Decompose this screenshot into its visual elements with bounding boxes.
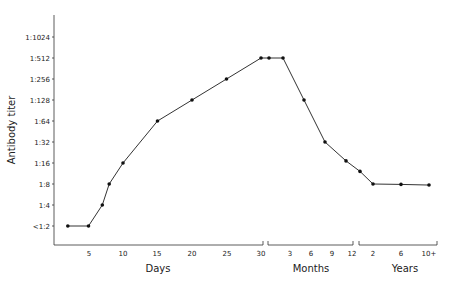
x-axis-title-days: Days [146,263,171,274]
y-tick-label: 1:32 [34,139,50,147]
data-point [267,56,271,60]
data-point [121,161,125,165]
y-tick-label: 1:128 [30,97,50,105]
x-tick-label: 10 [119,250,128,258]
y-tick-label: 1:4 [39,202,51,210]
data-point [323,140,327,144]
data-point [66,224,70,228]
x-axis-title-years: Years [391,263,418,274]
y-tick-label: 1:1024 [25,34,50,42]
y-tick-label: 1:64 [34,118,50,126]
data-point [259,56,263,60]
x-tick-label: 25 [223,250,232,258]
x-tick-label: 20 [188,250,197,258]
y-tick-label: 1:8 [39,181,50,189]
x-tick-label: 30 [257,250,266,258]
x-tick-label: 2 [371,250,375,258]
y-tick-label: 1:16 [34,160,50,168]
x-axis: 51015202530369122610+ [54,241,437,258]
x-axis-title-months: Months [293,263,330,274]
data-point [399,183,403,187]
x-tick-label: 5 [87,250,91,258]
y-tick-label: 1:256 [30,76,51,84]
y-axis-title: Antibody titer [6,95,17,165]
data-point [281,56,285,60]
data-point [87,224,91,228]
data-point [156,119,160,123]
y-axis: <1:21:41:81:161:321:641:1281:2561:5121:1… [25,15,54,245]
data-point [371,182,375,186]
x-tick-label: 6 [399,250,404,258]
data-point [107,182,111,186]
data-point [358,170,362,174]
data-point [344,159,348,163]
data-line [66,56,431,228]
x-tick-label: 9 [330,250,334,258]
y-tick-label: 1:512 [30,55,50,63]
x-tick-label: 3 [288,250,292,258]
data-point [190,98,194,102]
antibody-titer-chart: Antibody titer <1:21:41:81:161:321:641:1… [0,0,454,286]
x-tick-label: 12 [348,250,357,258]
data-point [101,203,105,207]
x-tick-label: 10+ [422,250,437,258]
x-tick-label: 15 [153,250,162,258]
data-point [225,77,229,81]
data-point [302,98,306,102]
x-tick-label: 6 [309,250,314,258]
y-tick-label: <1:2 [33,223,50,231]
data-point [427,183,431,187]
